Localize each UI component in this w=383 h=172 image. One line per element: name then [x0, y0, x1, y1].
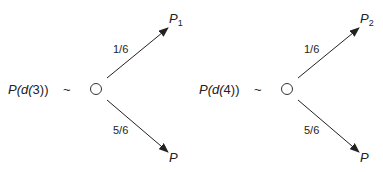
chance-node-1 [91, 84, 102, 95]
diagram-2-graphics [282, 28, 360, 152]
label-suffix: )) [40, 82, 49, 97]
lower-outcome-1: P [169, 151, 178, 164]
lottery-label-1: P(d(3)) [8, 83, 48, 96]
tilde-2: ~ [254, 83, 262, 96]
label-prefix: P(d( [199, 82, 224, 97]
lower-prob-2: 5/6 [304, 125, 319, 136]
label-arg: 3 [33, 82, 40, 97]
outcome-subscript: 1 [178, 18, 183, 28]
tree-graphics [0, 0, 383, 172]
label-suffix: )) [231, 82, 240, 97]
outcome-letter: P [360, 11, 369, 26]
outcome-letter: P [169, 11, 178, 26]
upper-prob-2: 1/6 [304, 44, 319, 55]
diagram-1-graphics [91, 28, 169, 152]
lower-outcome-2: P [360, 151, 369, 164]
lottery-label-2: P(d(4)) [199, 83, 239, 96]
chance-node-2 [282, 84, 293, 95]
lower-prob-1: 5/6 [113, 125, 128, 136]
label-prefix: P(d( [8, 82, 33, 97]
upper-outcome-1: P1 [169, 12, 183, 28]
outcome-subscript: 2 [369, 18, 374, 28]
outcome-letter: P [169, 150, 178, 165]
label-arg: 4 [224, 82, 231, 97]
upper-outcome-2: P2 [360, 12, 374, 28]
upper-prob-1: 1/6 [113, 44, 128, 55]
outcome-letter: P [360, 150, 369, 165]
tilde-1: ~ [63, 83, 71, 96]
